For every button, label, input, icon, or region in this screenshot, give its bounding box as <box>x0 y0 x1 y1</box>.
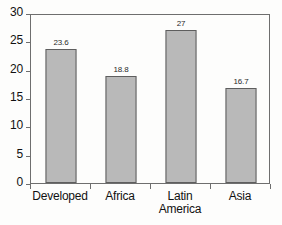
x-axis-category-label-line: Developed <box>30 190 90 203</box>
x-axis-category-label: LatinAmerica <box>150 190 210 216</box>
x-axis-tick-mark <box>30 184 31 189</box>
x-axis-category-label: Developed <box>30 190 90 203</box>
y-axis-tick-label: 0 <box>17 176 23 188</box>
bar-slot: 18.8 <box>91 15 151 183</box>
y-axis-tick-label: 5 <box>17 148 23 160</box>
bar-value-label: 27 <box>177 19 186 28</box>
bar[interactable] <box>46 49 77 183</box>
bar-slot: 16.7 <box>211 15 271 183</box>
x-axis-tick-mark <box>210 184 211 189</box>
bar-chart-screenshot: 051015202530 23.618.82716.7 DevelopedAfr… <box>0 0 282 225</box>
bar-slot: 27 <box>151 15 211 183</box>
bar[interactable] <box>106 76 137 183</box>
y-axis-tick-label: 10 <box>10 119 23 131</box>
y-axis-tick-label: 25 <box>10 34 23 46</box>
x-axis-category-label-line: America <box>150 203 210 216</box>
plot-area: 23.618.82716.7 <box>30 14 270 184</box>
x-axis-category-label-line: Africa <box>90 190 150 203</box>
x-axis-category-label: Asia <box>210 190 270 203</box>
y-axis-tick-label: 30 <box>10 6 23 18</box>
bar-slot: 23.6 <box>31 15 91 183</box>
bar-value-label: 18.8 <box>113 65 128 74</box>
x-axis-tick-mark <box>150 184 151 189</box>
bar[interactable] <box>166 30 197 183</box>
x-axis-tick-mark <box>90 184 91 189</box>
bar-value-label: 16.7 <box>233 77 248 86</box>
bar[interactable] <box>226 88 257 183</box>
x-axis-tick-mark <box>270 184 271 189</box>
bar-value-label: 23.6 <box>53 38 68 47</box>
y-axis-tick-label: 20 <box>10 63 23 75</box>
x-axis-category-label-line: Asia <box>210 190 270 203</box>
x-axis-category-label: Africa <box>90 190 150 203</box>
y-axis-tick-label: 15 <box>10 91 23 103</box>
